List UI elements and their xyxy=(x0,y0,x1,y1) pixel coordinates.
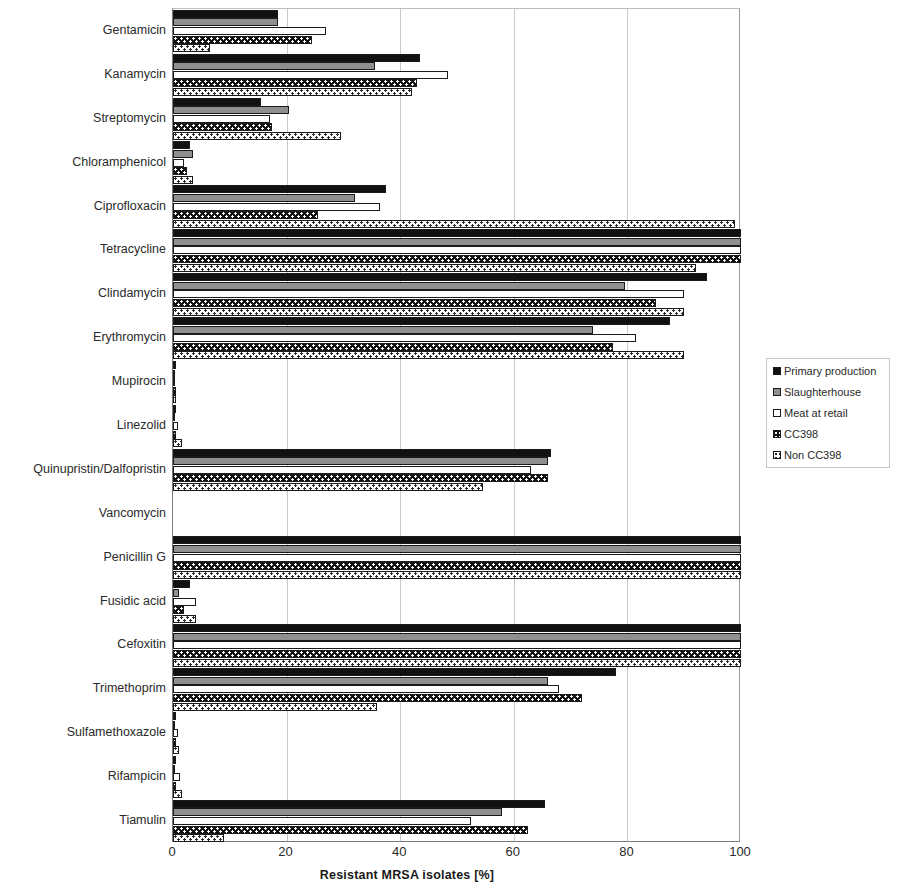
x-axis-tick-60: 60 xyxy=(506,844,520,859)
y-axis-label: Ciprofloxacin xyxy=(0,199,166,212)
bar xyxy=(173,351,684,359)
bar xyxy=(173,431,176,439)
bar xyxy=(173,203,380,211)
y-axis-label: Cefoxitin xyxy=(0,638,166,651)
bar xyxy=(173,71,448,79)
bar xyxy=(173,167,187,175)
bar xyxy=(173,641,741,649)
bar-group xyxy=(173,185,739,229)
bar xyxy=(173,817,471,825)
legend-item[interactable]: Primary production xyxy=(773,365,885,377)
bar xyxy=(173,413,175,421)
bar xyxy=(173,650,741,658)
bar xyxy=(173,615,196,623)
bar-group xyxy=(173,97,739,141)
bar xyxy=(173,685,559,693)
bar xyxy=(173,466,531,474)
bar xyxy=(173,606,184,614)
bar xyxy=(173,194,355,202)
legend-label: Meat at retail xyxy=(784,407,848,419)
bar xyxy=(173,132,341,140)
bar xyxy=(173,738,176,746)
chart-legend: Primary productionSlaughterhouseMeat at … xyxy=(766,358,890,468)
legend-item[interactable]: Meat at retail xyxy=(773,407,885,419)
bar xyxy=(173,378,175,386)
y-axis-label: Streptomycin xyxy=(0,111,166,124)
bar xyxy=(173,176,193,184)
y-axis-label: Tetracycline xyxy=(0,243,166,256)
bar xyxy=(173,589,179,597)
bar-group xyxy=(173,141,739,185)
bar xyxy=(173,826,528,834)
y-axis-label: Penicillin G xyxy=(0,550,166,563)
y-axis-label: Trimethoprim xyxy=(0,682,166,695)
bar xyxy=(173,659,741,667)
legend-label: Non CC398 xyxy=(784,449,841,461)
y-axis-label: Fusidic acid xyxy=(0,594,166,607)
x-axis-title-text: Resistant MRSA isolates [%] xyxy=(320,868,494,882)
bar xyxy=(173,633,741,641)
bar xyxy=(173,800,545,808)
bar xyxy=(173,405,176,413)
bar xyxy=(173,106,289,114)
bar xyxy=(173,677,548,685)
bar xyxy=(173,326,593,334)
y-axis-label: Clindamycin xyxy=(0,287,166,300)
bar xyxy=(173,79,417,87)
bar xyxy=(173,457,548,465)
bar-group xyxy=(173,53,739,97)
bar xyxy=(173,246,741,254)
bar xyxy=(173,159,184,167)
y-axis-category-labels: GentamicinKanamycinStreptomycinChloramph… xyxy=(0,8,166,842)
bar xyxy=(173,220,735,228)
y-axis-label: Gentamicin xyxy=(0,23,166,36)
legend-item[interactable]: Non CC398 xyxy=(773,449,885,461)
legend-item[interactable]: CC398 xyxy=(773,428,885,440)
bar-group xyxy=(173,272,739,316)
bar xyxy=(173,299,656,307)
bar-group xyxy=(173,624,739,668)
bar xyxy=(173,790,182,798)
y-axis-label: Kanamycin xyxy=(0,67,166,80)
bar xyxy=(173,571,741,579)
bar xyxy=(173,554,741,562)
bar xyxy=(173,282,625,290)
bar xyxy=(173,370,175,378)
legend-swatch-icon xyxy=(773,430,781,438)
bar xyxy=(173,211,318,219)
x-axis-tick-100: 100 xyxy=(729,844,751,859)
bar xyxy=(173,834,224,842)
bar xyxy=(173,439,182,447)
bar-group xyxy=(173,360,739,404)
bar-group xyxy=(173,580,739,624)
bar xyxy=(173,765,175,773)
bar-group xyxy=(173,316,739,360)
bar xyxy=(173,756,176,764)
bar-groups xyxy=(173,9,739,841)
legend-item[interactable]: Slaughterhouse xyxy=(773,386,885,398)
bar xyxy=(173,18,278,26)
y-axis-label: Erythromycin xyxy=(0,331,166,344)
bar xyxy=(173,98,261,106)
bar xyxy=(173,150,193,158)
y-axis-label: Rifampicin xyxy=(0,770,166,783)
bar-group xyxy=(173,9,739,53)
bar xyxy=(173,88,412,96)
y-axis-label: Tiamulin xyxy=(0,814,166,827)
bar xyxy=(173,361,176,369)
y-axis-label: Vancomycin xyxy=(0,506,166,519)
bar xyxy=(173,238,741,246)
bar xyxy=(173,10,278,18)
bar xyxy=(173,694,582,702)
y-axis-label: Sulfamethoxazole xyxy=(0,726,166,739)
bar-group xyxy=(173,711,739,755)
bar-group xyxy=(173,448,739,492)
bar xyxy=(173,290,684,298)
legend-label: Slaughterhouse xyxy=(784,386,861,398)
bar xyxy=(173,773,180,781)
bar xyxy=(173,545,741,553)
bar xyxy=(173,746,179,754)
bar xyxy=(173,36,312,44)
bar xyxy=(173,562,741,570)
bar xyxy=(173,580,190,588)
